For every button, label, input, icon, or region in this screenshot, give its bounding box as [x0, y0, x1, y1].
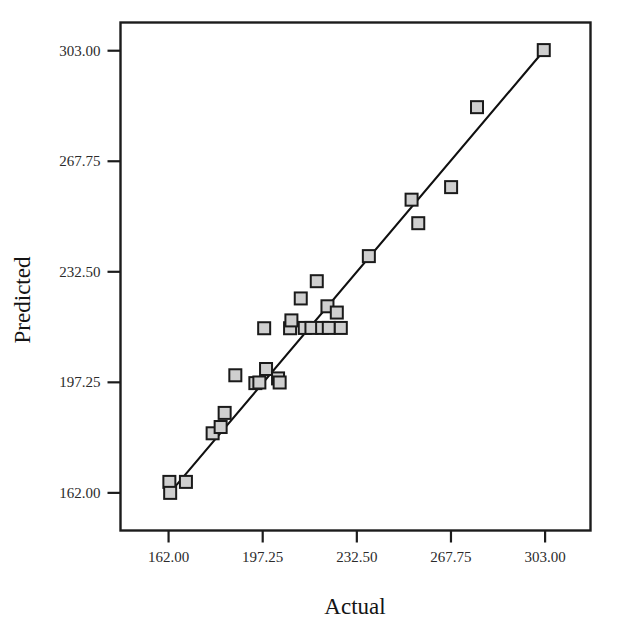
plot-frame	[121, 23, 591, 531]
y-tick-label-2: 232.50	[59, 264, 100, 280]
data-point	[295, 292, 307, 304]
data-point	[412, 217, 424, 229]
data-point	[229, 369, 241, 381]
y-axis-tick-labels: 162.00197.25232.50267.75303.00	[59, 43, 100, 501]
x-tick-label-1: 197.25	[242, 549, 283, 565]
data-point	[253, 376, 265, 388]
x-tick-label-4: 303.00	[524, 549, 565, 565]
data-point	[258, 322, 270, 334]
data-point	[323, 322, 335, 334]
data-point	[471, 101, 483, 113]
data-point	[215, 421, 227, 433]
data-point	[285, 314, 297, 326]
data-point	[538, 44, 550, 56]
figure-container: 162.00197.25232.50267.75303.00 162.00197…	[0, 0, 621, 630]
data-point	[311, 275, 323, 287]
x-axis-ticks	[169, 531, 546, 543]
data-point	[445, 181, 457, 193]
data-point	[180, 476, 192, 488]
y-tick-label-4: 303.00	[59, 43, 100, 59]
x-tick-label-2: 232.50	[336, 549, 377, 565]
data-point	[274, 376, 286, 388]
data-point	[331, 307, 343, 319]
data-point	[164, 487, 176, 499]
data-point	[260, 363, 272, 375]
x-tick-label-3: 267.75	[430, 549, 471, 565]
x-tick-label-0: 162.00	[148, 549, 189, 565]
data-point	[335, 322, 347, 334]
data-point	[406, 194, 418, 206]
y-axis-title: Predicted	[10, 256, 35, 343]
y-tick-label-0: 162.00	[59, 485, 100, 501]
y-tick-label-1: 197.25	[59, 374, 100, 390]
x-axis-title: Actual	[324, 594, 385, 619]
scatter-plot: 162.00197.25232.50267.75303.00 162.00197…	[0, 0, 621, 630]
data-point	[363, 250, 375, 262]
y-tick-label-3: 267.75	[59, 153, 100, 169]
data-point	[219, 407, 231, 419]
y-axis-ticks	[108, 51, 121, 493]
x-axis-tick-labels: 162.00197.25232.50267.75303.00	[148, 549, 566, 565]
